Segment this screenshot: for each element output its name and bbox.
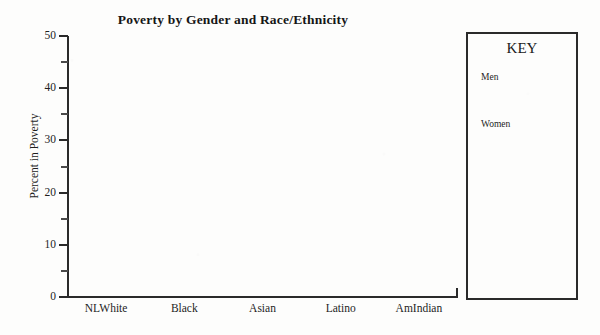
bar-group [147,36,225,296]
y-minor-tick [61,61,68,63]
legend-entry-women: Women [476,119,510,129]
y-major-tick [59,296,68,298]
y-tick-label: 30 [20,134,56,146]
bar-group [69,36,147,296]
y-major-tick [59,87,68,89]
bar-group [302,36,380,296]
y-minor-tick [61,270,68,272]
y-axis-title: Percent in Poverty [28,91,40,221]
chart-page: Poverty by Gender and Race/Ethnicity Per… [0,0,600,335]
y-tick-label: 0 [20,291,56,303]
x-axis-labels: NLWhiteBlackAsianLatinoAmIndian [67,302,458,315]
bar-group [225,36,303,296]
legend-label-men: Men [481,72,498,82]
legend-box: KEY Men Women [466,32,578,300]
y-major-tick [59,139,68,141]
y-minor-tick [61,218,68,220]
y-tick-label: 10 [20,239,56,251]
y-tick-label: 50 [20,30,56,42]
legend-entry-men: Men [476,72,498,82]
x-axis-line [67,296,458,298]
y-tick-label: 20 [20,187,56,199]
y-major-tick [59,35,68,37]
x-tick-label: NLWhite [67,302,145,315]
y-minor-tick [61,113,68,115]
y-major-tick [59,244,68,246]
x-tick-label: Asian [223,302,301,315]
legend-title: KEY [468,40,576,57]
x-tick-label: Black [145,302,223,315]
y-tick-label: 40 [20,82,56,94]
chart-title: Poverty by Gender and Race/Ethnicity [0,12,466,28]
legend-label-women: Women [481,119,510,129]
plot-area [69,36,458,296]
y-major-tick [59,192,68,194]
x-tick-label: AmIndian [380,302,458,315]
x-tick-label: Latino [302,302,380,315]
bar-group [380,36,458,296]
y-minor-tick [61,166,68,168]
